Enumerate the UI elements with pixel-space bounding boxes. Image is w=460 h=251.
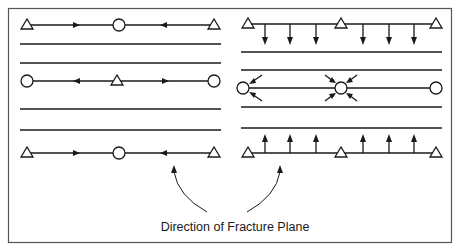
arrow-up-icon: [386, 134, 392, 142]
circle-node: [113, 19, 125, 31]
circle-node: [21, 75, 33, 87]
curved-arrow-right-icon: [247, 172, 280, 212]
right-row-2: [237, 75, 442, 101]
triangle-node: [430, 147, 442, 157]
arrow-up-icon: [360, 134, 366, 142]
arrow-right-icon: [73, 22, 80, 28]
triangle-node: [430, 18, 442, 28]
arrow-down-icon: [313, 37, 319, 45]
triangle-node: [208, 147, 220, 157]
arrow-up-icon: [287, 134, 293, 142]
arrow-up-icon: [262, 134, 268, 142]
arrow-converge-icon: [346, 93, 353, 99]
right-row-1: [242, 18, 442, 45]
figure-caption: Direction of Fracture Plane: [130, 220, 340, 234]
circle-node: [430, 82, 442, 94]
circle-node: [113, 147, 125, 159]
triangle-node: [111, 75, 123, 85]
triangle-node: [21, 147, 33, 157]
arrow-converge-icon: [329, 93, 336, 99]
arrow-left-icon: [160, 150, 167, 156]
arrow-up-icon: [411, 134, 417, 142]
triangle-node: [242, 18, 254, 28]
arrow-converge-icon: [249, 92, 256, 98]
arrow-converge-icon: [249, 78, 256, 84]
triangle-node: [208, 19, 220, 29]
arrow-left-icon: [73, 78, 80, 84]
right-panel: [237, 18, 442, 157]
left-row-2: [21, 75, 220, 87]
left-row-3: [21, 147, 220, 159]
right-row-3: [242, 134, 442, 157]
circle-node: [237, 82, 249, 94]
arrow-converge-icon: [346, 77, 353, 83]
arrow-up-icon: [313, 134, 319, 142]
left-row-1: [21, 19, 220, 31]
left-panel: [20, 19, 221, 159]
triangle-node: [335, 147, 347, 157]
arrow-down-icon: [262, 37, 268, 45]
curved-arrow-left-icon: [174, 172, 207, 212]
circle-node: [208, 75, 220, 87]
arrow-right-icon: [73, 150, 80, 156]
arrow-down-icon: [411, 37, 417, 45]
arrow-down-icon: [287, 37, 293, 45]
arrow-down-icon: [360, 37, 366, 45]
circle-node: [335, 82, 347, 94]
arrow-right-icon: [162, 78, 169, 84]
arrow-down-icon: [386, 37, 392, 45]
arrow-left-icon: [160, 22, 167, 28]
triangle-node: [335, 18, 347, 28]
arrow-converge-icon: [329, 77, 336, 83]
triangle-node: [21, 19, 33, 29]
caption-pointers: [171, 165, 283, 212]
fracture-plane-diagram: [0, 0, 460, 251]
triangle-node: [242, 147, 254, 157]
